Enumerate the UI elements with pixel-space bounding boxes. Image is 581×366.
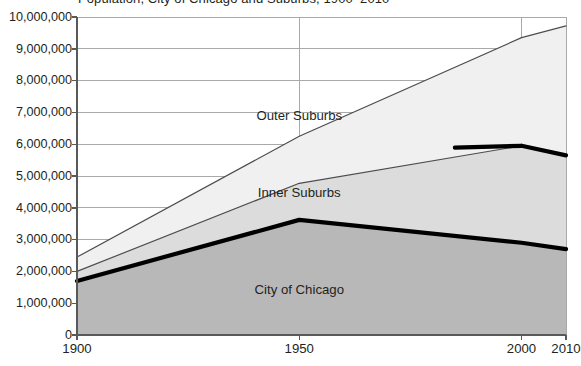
- series-label-inner-suburbs: Inner Suburbs: [258, 186, 341, 200]
- series-label-city-of-chicago: City of Chicago: [255, 283, 344, 297]
- series-label-outer-suburbs: Outer Suburbs: [256, 109, 342, 123]
